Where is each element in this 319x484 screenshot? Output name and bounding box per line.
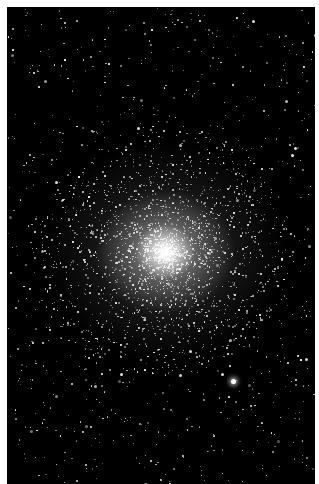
star-field-image [7,7,315,484]
stars-layer [7,7,315,484]
